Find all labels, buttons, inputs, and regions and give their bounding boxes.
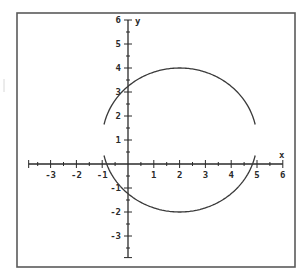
y-tick-label: -2: [110, 207, 121, 217]
y-tick-label: -3: [110, 231, 121, 241]
x-axis-label: x: [279, 150, 285, 160]
y-tick-label: 4: [116, 63, 122, 73]
x-tick-label: -1: [97, 170, 108, 180]
x-tick-label: 4: [228, 170, 234, 180]
x-tick-label: -2: [71, 170, 82, 180]
y-axis-label: y: [135, 16, 141, 26]
x-tick-label: 5: [254, 170, 259, 180]
axes: [29, 20, 283, 258]
y-tick-label: 2: [116, 111, 121, 121]
circle-graph: -3-2-1123456654321-1-2-3xy: [0, 0, 297, 280]
x-tick-label: 1: [151, 170, 156, 180]
y-tick-label: 5: [116, 39, 121, 49]
x-tick-label: 3: [203, 170, 208, 180]
x-tick-label: 2: [177, 170, 182, 180]
x-tick-label: 6: [280, 170, 285, 180]
y-tick-label: 6: [116, 15, 121, 25]
tick-labels: -3-2-1123456654321-1-2-3xy: [45, 15, 285, 241]
y-tick-label: 1: [116, 135, 121, 145]
plot-frame: [17, 13, 295, 267]
x-tick-label: -3: [45, 170, 56, 180]
